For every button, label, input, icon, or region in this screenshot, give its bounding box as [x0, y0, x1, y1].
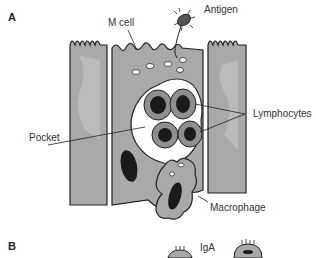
- left-epithelial-cell: [70, 41, 107, 205]
- label-pocket: Pocket: [29, 132, 60, 143]
- label-m-cell: M cell: [108, 17, 134, 28]
- label-macrophage: Macrophage: [210, 202, 266, 213]
- panel-label-b: B: [8, 240, 16, 252]
- label-antigen: Antigen: [204, 4, 238, 15]
- right-epithelial-cell: [208, 41, 246, 193]
- macrophage: [156, 158, 196, 219]
- panel-label-a: A: [8, 11, 16, 23]
- m-cell-diagram: [0, 0, 316, 258]
- label-lymphocytes: Lymphocytes: [253, 108, 312, 119]
- label-iga: IgA: [200, 242, 215, 253]
